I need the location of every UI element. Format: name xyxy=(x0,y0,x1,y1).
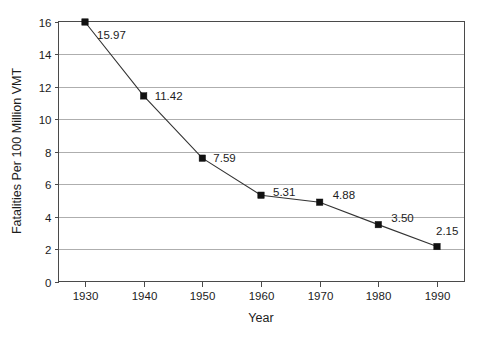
y-tick-label-0: 0 xyxy=(45,277,51,289)
x-tick-label-1930: 1930 xyxy=(73,290,99,302)
x-tick-label-1940: 1940 xyxy=(132,290,158,302)
data-point-label-1930: 15.97 xyxy=(97,29,126,41)
x-axis-title: Year xyxy=(248,311,273,325)
data-point-marker-1950 xyxy=(199,155,205,161)
series-line-fatalities xyxy=(85,22,437,247)
data-point-label-1960: 5.31 xyxy=(273,186,295,198)
x-tick-label-1950: 1950 xyxy=(190,290,216,302)
data-point-label-1940: 11.42 xyxy=(155,90,183,102)
plot-area-border xyxy=(59,22,465,282)
y-tick-group: 0246810121416 xyxy=(39,17,59,289)
chart-canvas: 0246810121416 19301940195019601970198019… xyxy=(0,0,484,339)
data-point-marker-1960 xyxy=(258,192,264,198)
x-tick-label-1990: 1990 xyxy=(425,290,451,302)
data-point-marker-1930 xyxy=(82,19,88,25)
y-tick-label-4: 4 xyxy=(45,212,52,224)
x-tick-label-1960: 1960 xyxy=(249,290,275,302)
y-tick-label-16: 16 xyxy=(39,17,52,29)
data-point-marker-1990 xyxy=(434,243,440,249)
y-tick-label-12: 12 xyxy=(39,82,52,94)
x-tick-label-1970: 1970 xyxy=(308,290,334,302)
y-tick-label-2: 2 xyxy=(45,244,51,256)
line-chart: 0246810121416 19301940195019601970198019… xyxy=(0,0,484,339)
x-tick-label-1980: 1980 xyxy=(366,290,392,302)
series-markers-group xyxy=(82,19,440,250)
data-point-label-1970: 4.88 xyxy=(333,189,355,201)
data-point-marker-1940 xyxy=(140,93,146,99)
x-tick-group: 1930194019501960197019801990 xyxy=(73,282,451,302)
data-point-marker-1980 xyxy=(375,221,381,227)
data-point-marker-1970 xyxy=(316,199,322,205)
y-tick-label-6: 6 xyxy=(45,179,51,191)
data-point-label-1950: 7.59 xyxy=(213,152,235,164)
y-tick-label-14: 14 xyxy=(39,49,52,61)
y-tick-label-8: 8 xyxy=(45,147,51,159)
data-point-label-1980: 3.50 xyxy=(391,212,413,224)
data-point-label-1990: 2.15 xyxy=(436,225,458,237)
y-axis-title: Fatalities Per 100 Million VMT xyxy=(10,68,24,234)
y-tick-label-10: 10 xyxy=(39,114,52,126)
data-point-labels-group: 15.9711.427.595.314.883.502.15 xyxy=(97,29,458,237)
